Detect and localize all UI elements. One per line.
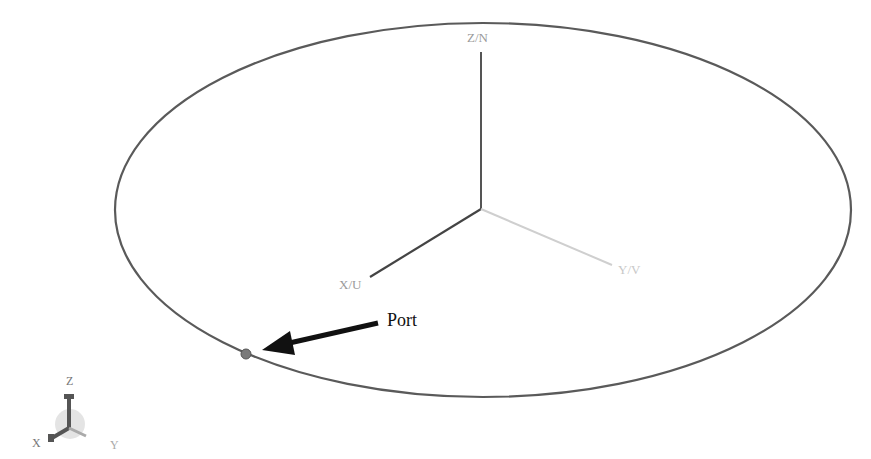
x-axis-label: X/U — [339, 277, 361, 293]
y-axis-line — [481, 209, 612, 265]
triad-z-label: Z — [66, 374, 73, 389]
z-axis-label: Z/N — [467, 30, 488, 46]
triad-x-label: X — [32, 436, 41, 451]
orientation-triad — [48, 394, 86, 442]
diagram-canvas — [0, 0, 871, 459]
y-axis-label: Y/V — [618, 262, 640, 278]
port-arrow-shaft — [285, 323, 378, 344]
port-label: Port — [387, 310, 417, 331]
port-arrow-head — [262, 331, 295, 355]
triad-y-label: Y — [110, 438, 119, 453]
x-axis-line — [370, 209, 481, 277]
port-marker — [241, 349, 251, 359]
